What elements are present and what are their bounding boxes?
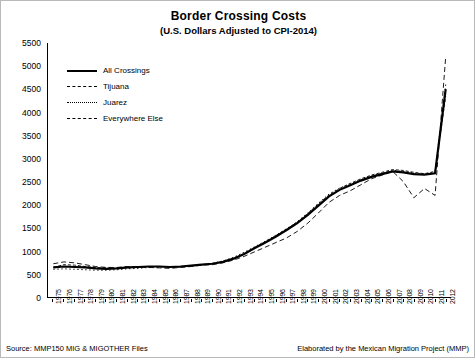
legend-swatch [67, 86, 97, 87]
x-tick [339, 299, 340, 302]
y-tick-label: 500 [27, 270, 41, 280]
legend-item[interactable]: Tijuana [67, 79, 187, 95]
legend-item[interactable]: Juarez [67, 95, 187, 111]
y-tick-label: 5000 [22, 61, 41, 71]
x-tick [74, 299, 75, 302]
x-tick-label: 2007 [396, 289, 403, 304]
x-tick-label: 1989 [204, 289, 211, 304]
x-tick [159, 299, 160, 302]
x-tick-label: 1987 [183, 289, 190, 304]
x-tick [222, 299, 223, 302]
x-tick [403, 299, 404, 302]
x-tick [393, 299, 394, 302]
chart-container: Border Crossing Costs (U.S. Dollars Adju… [0, 0, 475, 358]
x-tick-label: 1982 [130, 289, 137, 304]
x-tick [180, 299, 181, 302]
x-tick-label: 2004 [364, 289, 371, 304]
x-tick-label: 2005 [374, 289, 381, 304]
x-tick [127, 299, 128, 302]
x-tick [307, 299, 308, 302]
credit-note: Elaborated by the Mexican Migration Proj… [297, 344, 469, 353]
x-tick [318, 299, 319, 302]
y-tick-label: 1000 [22, 247, 41, 257]
x-tick [191, 299, 192, 302]
x-tick-label: 1996 [279, 289, 286, 304]
x-tick [137, 299, 138, 302]
x-axis-labels: 1975197619771978197919801981198219831984… [47, 299, 451, 343]
source-note: Source: MMP150 MIG & MIGOTHER Files [6, 344, 148, 353]
x-tick [286, 299, 287, 302]
x-tick-label: 1976 [66, 289, 73, 304]
x-tick-label: 2010 [427, 289, 434, 304]
x-tick-label: 1993 [247, 289, 254, 304]
x-tick-label: 1977 [77, 289, 84, 304]
legend-swatch [67, 102, 97, 103]
x-tick-label: 2009 [417, 289, 424, 304]
x-tick-label: 1984 [151, 289, 158, 304]
x-tick-label: 1994 [257, 289, 264, 304]
x-tick-label: 2000 [321, 289, 328, 304]
x-tick-label: 1985 [162, 289, 169, 304]
x-tick [265, 299, 266, 302]
x-tick-label: 2011 [438, 290, 445, 304]
x-tick-label: 1997 [289, 289, 296, 304]
x-tick-label: 2006 [385, 289, 392, 304]
y-tick-label: 2500 [22, 177, 41, 187]
legend-swatch [67, 118, 97, 119]
legend-label: Juarez [103, 95, 127, 111]
legend-item[interactable]: Everywhere Else [67, 111, 187, 127]
y-tick-label: 0 [36, 293, 41, 303]
x-tick [244, 299, 245, 302]
x-tick-label: 2008 [406, 289, 413, 304]
x-tick [233, 299, 234, 302]
x-tick-label: 2003 [353, 289, 360, 304]
x-tick [424, 299, 425, 302]
x-tick-label: 1995 [268, 289, 275, 304]
y-axis-labels: 0500100015002000250030003500400045005000… [1, 43, 45, 298]
x-tick [361, 299, 362, 302]
x-tick-label: 1978 [87, 289, 94, 304]
x-tick-label: 1992 [236, 289, 243, 304]
legend-swatch [67, 70, 97, 72]
legend-label: All Crossings [103, 63, 150, 79]
x-tick-label: 2002 [342, 289, 349, 304]
x-tick-label: 1979 [98, 289, 105, 304]
chart-subtitle: (U.S. Dollars Adjusted to CPI-2014) [1, 25, 475, 36]
y-tick-label: 1500 [22, 223, 41, 233]
x-tick [371, 299, 372, 302]
x-tick [254, 299, 255, 302]
x-tick-label: 1981 [119, 289, 126, 304]
y-tick-label: 4500 [22, 84, 41, 94]
x-tick [446, 299, 447, 302]
x-tick [435, 299, 436, 302]
y-tick-label: 4000 [22, 108, 41, 118]
x-tick [95, 299, 96, 302]
legend-label: Tijuana [103, 79, 129, 95]
x-tick-label: 1986 [172, 289, 179, 304]
x-tick-label: 1999 [310, 289, 317, 304]
x-tick [276, 299, 277, 302]
x-tick [212, 299, 213, 302]
x-tick [201, 299, 202, 302]
legend-item[interactable]: All Crossings [67, 63, 187, 79]
x-tick-label: 1988 [194, 289, 201, 304]
x-tick-label: 2001 [332, 289, 339, 304]
x-tick-label: 1975 [55, 289, 62, 304]
x-tick [52, 299, 53, 302]
x-tick [105, 299, 106, 302]
y-tick-label: 3500 [22, 131, 41, 141]
x-tick [297, 299, 298, 302]
legend-label: Everywhere Else [103, 111, 163, 127]
chart-title: Border Crossing Costs [1, 9, 475, 23]
y-tick-label: 2000 [22, 200, 41, 210]
x-tick [350, 299, 351, 302]
x-tick [382, 299, 383, 302]
x-tick-label: 1990 [215, 289, 222, 304]
x-tick [116, 299, 117, 302]
x-tick [63, 299, 64, 302]
x-tick-label: 1983 [140, 289, 147, 304]
x-tick [414, 299, 415, 302]
x-tick [84, 299, 85, 302]
x-tick-label: 2012 [449, 289, 456, 304]
x-tick [148, 299, 149, 302]
